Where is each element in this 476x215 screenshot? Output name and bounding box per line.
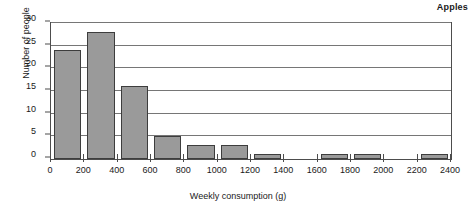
y-tick-label: 30 bbox=[26, 14, 36, 23]
y-tick-label: 25 bbox=[26, 36, 36, 45]
bar bbox=[87, 32, 114, 159]
x-tick-mark bbox=[183, 154, 184, 162]
x-tick-mark bbox=[317, 154, 318, 162]
chart-title: Apples bbox=[437, 2, 468, 12]
y-tick-label: 20 bbox=[26, 59, 36, 68]
x-tick-mark bbox=[83, 154, 84, 162]
x-tick-label: 400 bbox=[109, 165, 124, 175]
x-tick-mark bbox=[417, 154, 418, 162]
x-tick-label: 1000 bbox=[207, 165, 227, 175]
x-tick-label: 2000 bbox=[373, 165, 393, 175]
x-tick-label: 600 bbox=[142, 165, 157, 175]
x-tick-label: 1600 bbox=[307, 165, 327, 175]
x-tick-label: 1800 bbox=[340, 165, 360, 175]
x-tick-label: 2200 bbox=[407, 165, 427, 175]
bar bbox=[221, 145, 248, 159]
x-tick-label: 1200 bbox=[240, 165, 260, 175]
y-tick-label: 0 bbox=[31, 150, 36, 159]
x-tick-mark bbox=[383, 154, 384, 162]
x-tick-label: 2400 bbox=[440, 165, 460, 175]
x-tick-mark bbox=[117, 154, 118, 162]
y-axis: Number of people 051015202530 bbox=[0, 22, 44, 158]
bar bbox=[54, 50, 81, 159]
x-tick-mark bbox=[250, 154, 251, 162]
histogram-figure: Apples Number of people 051015202530 020… bbox=[0, 0, 476, 215]
x-tick-label: 800 bbox=[176, 165, 191, 175]
x-tick-label: 0 bbox=[47, 165, 52, 175]
x-tick-mark bbox=[50, 154, 51, 162]
x-tick-label: 1400 bbox=[273, 165, 293, 175]
bar bbox=[187, 145, 214, 159]
x-axis: 0200400600800100012001400160018002000220… bbox=[50, 158, 450, 182]
x-tick-mark bbox=[450, 154, 451, 162]
gridline bbox=[51, 22, 451, 23]
x-tick-mark bbox=[283, 154, 284, 162]
y-tick-label: 15 bbox=[26, 82, 36, 91]
x-tick-label: 200 bbox=[76, 165, 91, 175]
bar bbox=[121, 86, 148, 159]
plot-area bbox=[50, 22, 452, 160]
x-tick-mark bbox=[350, 154, 351, 162]
x-axis-title: Weekly consumption (g) bbox=[0, 191, 476, 201]
x-tick-mark bbox=[150, 154, 151, 162]
y-tick-label: 5 bbox=[31, 127, 36, 136]
bar bbox=[154, 136, 181, 159]
x-tick-mark bbox=[217, 154, 218, 162]
y-tick-label: 10 bbox=[26, 104, 36, 113]
